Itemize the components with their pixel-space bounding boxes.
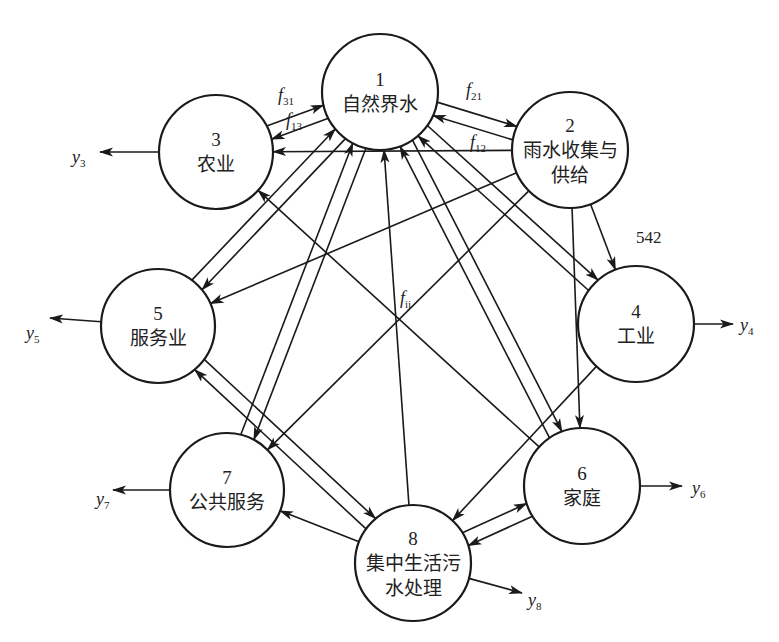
- node-7: 7公共服务: [170, 433, 284, 547]
- flow-label-f31: f31: [278, 85, 294, 107]
- flow-edge-2-to-4: [591, 204, 616, 270]
- node-circle: [170, 433, 284, 547]
- node-circle: [101, 269, 215, 383]
- output-arrow-y5: [50, 318, 101, 322]
- node-number: 7: [222, 467, 232, 488]
- output-label-y6: y6: [690, 478, 706, 500]
- flow-edge-8-to-6: [462, 504, 526, 533]
- node-label: 集中生活污: [366, 552, 461, 574]
- node-label: 供给: [551, 164, 589, 186]
- node-3: 3农业: [159, 95, 273, 209]
- node-number: 4: [631, 301, 641, 322]
- nodes-layer: 1自然界水2雨水收集与供给3农业4工业5服务业6家庭7公共服务8集中生活污水处理: [101, 34, 694, 621]
- output-label-y7: y7: [94, 489, 110, 511]
- node-circle: [322, 34, 438, 150]
- output-label-y3: y3: [70, 147, 86, 169]
- node-6: 6家庭: [524, 428, 640, 544]
- node-2: 2雨水收集与供给: [512, 92, 628, 208]
- flow-label-f12: f12: [470, 132, 486, 154]
- node-label: 公共服务: [189, 491, 265, 513]
- node-number: 1: [375, 69, 385, 90]
- flow-label-f21: f21: [466, 80, 482, 102]
- node-circle: [578, 266, 694, 382]
- node-4: 4工业: [578, 266, 694, 382]
- node-label: 水处理: [385, 577, 442, 599]
- node-label: 家庭: [563, 487, 601, 509]
- flow-edge-1-to-2: [437, 102, 517, 126]
- flow-label-fij: fij: [400, 288, 411, 310]
- node-label: 自然界水: [342, 93, 418, 115]
- water-flow-network-diagram: y3y5y4y7y6y8 1自然界水2雨水收集与供给3农业4工业5服务业6家庭7…: [0, 0, 779, 642]
- node-8: 8集中生活污水处理: [355, 505, 471, 621]
- node-number: 2: [565, 115, 575, 136]
- flow-edge-8-to-7: [280, 511, 359, 542]
- flow-value-label: 542: [636, 228, 662, 247]
- node-circle: [159, 95, 273, 209]
- node-label: 雨水收集与: [523, 139, 618, 161]
- output-label-y5: y5: [24, 323, 40, 345]
- node-number: 3: [211, 129, 221, 150]
- node-label: 农业: [197, 153, 235, 175]
- node-5: 5服务业: [101, 269, 215, 383]
- node-1: 1自然界水: [322, 34, 438, 150]
- node-number: 5: [153, 303, 163, 324]
- flow-edge-1-to-7: [254, 148, 366, 439]
- node-number: 8: [408, 528, 418, 549]
- node-circle: [524, 428, 640, 544]
- node-label: 服务业: [130, 327, 187, 349]
- flow-edge-6-to-8: [468, 516, 532, 545]
- node-label: 工业: [617, 325, 655, 347]
- output-label-y8: y8: [526, 590, 542, 612]
- output-label-y4: y4: [738, 315, 754, 337]
- flow-edge-8-to-1: [384, 150, 409, 505]
- node-number: 6: [577, 463, 587, 484]
- output-arrow-y8: [469, 578, 522, 593]
